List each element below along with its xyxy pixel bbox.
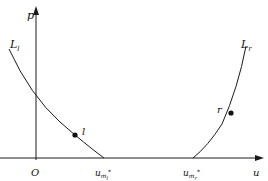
tick-u-mr-star: umr* [183,168,200,181]
x-axis-label: u [253,167,259,178]
curve-right-label: Lr [240,38,252,53]
point-r-label: r [217,104,223,115]
tick-u-ml-star: uml* [95,168,111,181]
point-l-label: l [82,126,85,137]
y-axis-label: p [27,9,34,22]
curve-left-wave [9,49,104,158]
curve-right-wave [193,46,246,158]
x-axis-arrow-icon [255,155,264,161]
point-r-marker [228,110,233,115]
curve-left-label: Ll [9,38,20,53]
origin-label: O [31,167,39,178]
point-l-marker [72,132,77,137]
phase-diagram: p u O Ll Lr l r uml* umr* [0,0,268,181]
